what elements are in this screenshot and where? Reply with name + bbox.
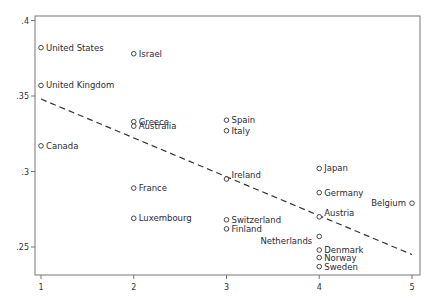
data-point-marker — [39, 144, 44, 149]
x-axis-ticks: 12345 — [38, 275, 414, 292]
data-point-marker — [224, 118, 229, 123]
point-label: France — [139, 183, 167, 193]
point-label: United States — [46, 43, 104, 53]
data-point-marker — [317, 255, 322, 260]
point-label: Luxembourg — [139, 213, 192, 223]
x-tick-label: 3 — [224, 283, 229, 292]
scatter-chart: .25.3.35.4 12345 United StatesUnited Kin… — [0, 0, 436, 308]
point-label: Sweden — [324, 262, 358, 272]
data-point-marker — [131, 216, 136, 221]
x-tick-label: 1 — [38, 283, 43, 292]
data-point-marker — [131, 186, 136, 191]
point-label: Finland — [232, 224, 262, 234]
data-point-marker — [317, 215, 322, 220]
point-label: Spain — [232, 115, 256, 125]
x-tick-label: 4 — [317, 283, 322, 292]
data-point-marker — [39, 45, 44, 50]
y-tick-label: .35 — [16, 92, 29, 101]
point-label: Italy — [232, 126, 250, 136]
point-label: Canada — [46, 141, 78, 151]
data-point-marker — [317, 248, 322, 253]
point-label: Belgium — [371, 198, 406, 208]
data-point-marker — [224, 218, 229, 223]
data-point-marker — [224, 227, 229, 232]
point-label: Israel — [139, 49, 162, 59]
data-point-marker — [131, 51, 136, 56]
y-tick-label: .25 — [16, 243, 29, 252]
y-tick-label: .4 — [21, 17, 29, 26]
data-point-marker — [224, 128, 229, 133]
data-point-marker — [39, 83, 44, 88]
data-point-marker — [131, 124, 136, 129]
point-label: Austria — [324, 208, 354, 218]
y-axis-ticks: .25.3.35.4 — [16, 17, 35, 253]
point-label: Netherlands — [260, 236, 312, 246]
data-point-marker — [317, 234, 322, 239]
data-point-marker — [317, 166, 322, 171]
data-point-marker — [317, 190, 322, 195]
point-label: Japan — [323, 163, 348, 173]
data-point-marker — [131, 119, 136, 124]
x-tick-label: 5 — [409, 283, 414, 292]
x-tick-label: 2 — [131, 283, 136, 292]
point-label: United Kingdom — [46, 80, 114, 90]
point-label: Ireland — [232, 170, 261, 180]
data-point-marker — [224, 177, 229, 182]
point-label: Germany — [324, 188, 363, 198]
plot-frame — [35, 16, 420, 275]
data-point-marker — [317, 264, 322, 269]
data-point-marker — [410, 201, 415, 206]
y-tick-label: .3 — [21, 168, 29, 177]
data-points: United StatesUnited KingdomCanadaIsraelG… — [39, 43, 415, 272]
point-label: Australia — [139, 121, 177, 131]
